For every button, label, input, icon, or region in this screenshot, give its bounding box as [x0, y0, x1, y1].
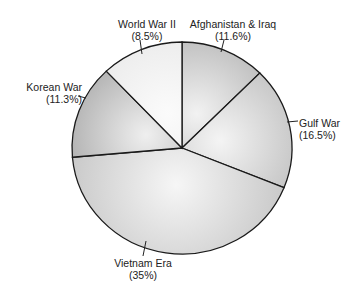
label-world-war-ii: World War II (8.5%): [107, 18, 187, 42]
label-vietnam-era: Vietnam Era (35%): [103, 257, 183, 281]
label-korean-war: Korean War (11.3%): [12, 81, 82, 105]
pie-chart: [0, 0, 354, 290]
label-gulf-war: Gulf War (16.5%): [299, 117, 349, 141]
label-afghanistan-iraq: Afghanistan & Iraq (11.6%): [178, 18, 288, 42]
